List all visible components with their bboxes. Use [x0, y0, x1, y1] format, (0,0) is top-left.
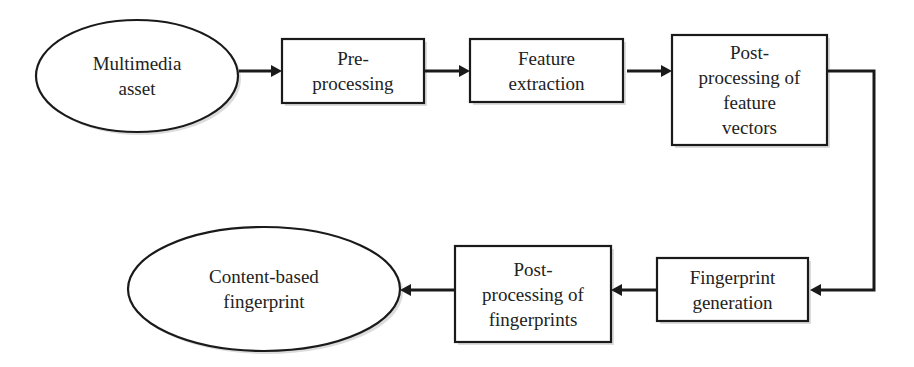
arrowhead-icon [810, 284, 821, 296]
label-multimedia-asset: Multimedia asset [36, 20, 238, 132]
edge-fingerprint-generation-to-postprocessing [611, 284, 657, 296]
label-pre-processing: Pre- processing [282, 39, 424, 103]
edge-postprocessing-to-content-fingerprint [400, 284, 455, 296]
arrowhead-icon [459, 65, 470, 77]
edge-feature-extraction-to-postprocessing [627, 65, 672, 77]
arrowhead-icon [661, 65, 672, 77]
label-feature-extraction: Feature extraction [470, 39, 623, 102]
edge-preprocessing-to-feature-extraction [424, 65, 470, 77]
label-post-processing-fingerprints: Post- processing of fingerprints [455, 246, 611, 342]
arrowhead-icon [271, 65, 282, 77]
label-post-processing-feature-vectors: Post- processing of feature vectors [672, 35, 827, 145]
edge-asset-to-preprocessing [239, 65, 282, 77]
label-content-based-fingerprint: Content-based fingerprint [128, 227, 400, 351]
label-fingerprint-generation: Fingerprint generation [657, 258, 808, 321]
